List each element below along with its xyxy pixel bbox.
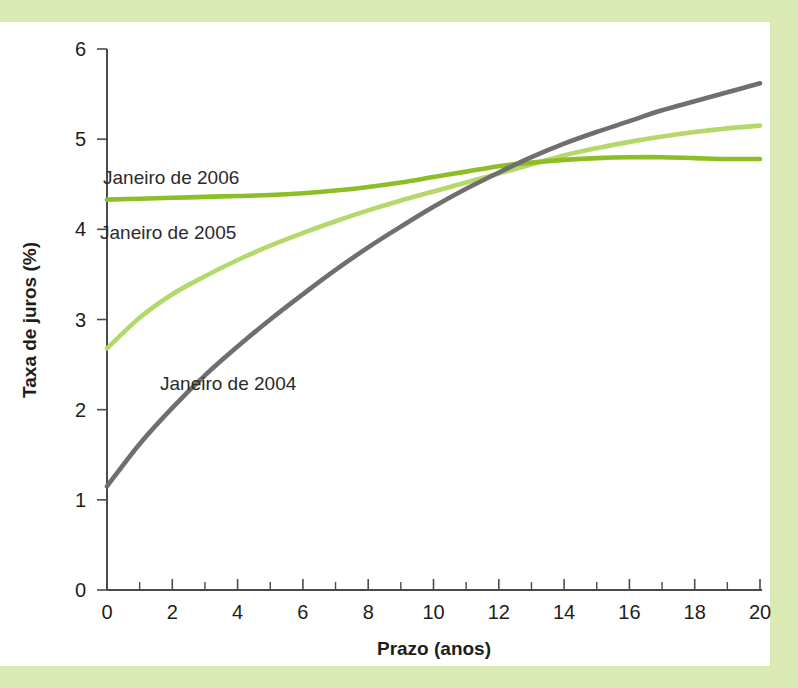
x-tick-label-2: 2: [167, 601, 178, 623]
annotation-janeiro-de-2006: Janeiro de 2006: [103, 167, 239, 188]
x-tick-label-18: 18: [684, 601, 706, 623]
x-tick-label-4: 4: [232, 601, 243, 623]
x-axis-title: Prazo (anos): [377, 638, 491, 659]
x-tick-label-6: 6: [297, 601, 308, 623]
y-axis-title: Taxa de juros (%): [19, 242, 40, 398]
x-tick-label-8: 8: [363, 601, 374, 623]
x-tick-label-0: 0: [101, 601, 112, 623]
y-tick-label-1: 1: [75, 489, 86, 511]
curve-janeiro-de-2004: [107, 83, 760, 486]
annotation-janeiro-de-2004: Janeiro de 2004: [160, 373, 297, 394]
x-tick-label-12: 12: [488, 601, 510, 623]
yield-curve-chart: 0123456 02468101214161820 Janeiro de 200…: [0, 0, 798, 688]
y-axis-tick-labels: 0123456: [75, 38, 86, 601]
annotation-janeiro-de-2005: Janeiro de 2005: [100, 222, 236, 243]
y-tick-label-0: 0: [75, 579, 86, 601]
y-tick-label-4: 4: [75, 218, 86, 240]
y-tick-label-3: 3: [75, 309, 86, 331]
x-tick-label-14: 14: [553, 601, 575, 623]
x-axis-tick-labels: 02468101214161820: [101, 601, 771, 623]
series-curves: [107, 83, 760, 486]
x-tick-label-10: 10: [422, 601, 444, 623]
y-tick-label-5: 5: [75, 128, 86, 150]
x-tick-label-20: 20: [749, 601, 771, 623]
x-tick-label-16: 16: [618, 601, 640, 623]
y-tick-label-6: 6: [75, 38, 86, 60]
chart-page: 0123456 02468101214161820 Janeiro de 200…: [0, 0, 798, 688]
y-axis-ticks: [97, 49, 107, 590]
y-tick-label-2: 2: [75, 399, 86, 421]
